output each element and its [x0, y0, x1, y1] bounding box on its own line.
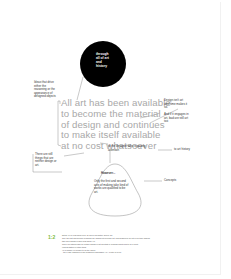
right-top-note: Design isn't art until time makes it so. — [164, 99, 188, 110]
right-mid-note: And if it engages in art, bad are still … — [164, 113, 190, 124]
however-label: However... — [101, 172, 131, 176]
blob-text: Only the first and second acts of making… — [94, 180, 130, 194]
left-bottom-note: There are still things that are neither … — [35, 153, 61, 167]
center-node-text: through all of art and history — [96, 52, 112, 68]
art-history-label: to art history — [174, 148, 204, 152]
designer-note: to the designer who is paying attention — [108, 145, 146, 152]
concepts-label: Concepts — [164, 179, 190, 183]
footnote-block: Notes: (1) by first-hand view, (2) and i… — [62, 234, 182, 254]
footnote-line: - the ill-ago embodied in the designer's… — [62, 251, 182, 254]
left-top-note: Ideas that drive either the reasoning or… — [34, 81, 58, 99]
footnote-badge: 1:2 — [48, 234, 55, 240]
